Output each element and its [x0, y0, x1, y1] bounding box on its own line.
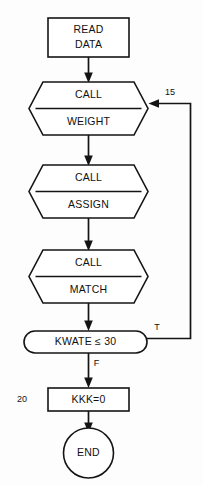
node-call-weight-line1: CALL: [75, 88, 102, 100]
connector-loop-back: [147, 99, 191, 338]
node-call-match-line1: CALL: [75, 256, 102, 268]
flowchart-diagram: READ DATA CALL WEIGHT CALL ASSIGN CALL M…: [0, 0, 203, 485]
connector-match-to-decision: [84, 303, 93, 331]
connector-weight-to-assign: [84, 135, 93, 166]
step-label-kkk: 20: [17, 394, 27, 404]
node-decision-kwate[interactable]: KWATE ≤ 30: [24, 331, 147, 353]
node-call-match-line2: MATCH: [70, 283, 108, 295]
node-call-assign-line2: ASSIGN: [68, 198, 109, 210]
node-read-data-line2: DATA: [75, 38, 102, 50]
node-call-weight-line2: WEIGHT: [67, 115, 111, 127]
connector-read-to-weight: [84, 57, 93, 83]
node-call-assign[interactable]: CALL ASSIGN: [29, 165, 148, 218]
node-assign-kkk-label: KKK=0: [72, 393, 106, 405]
connector-decision-false-to-kkk: [84, 353, 93, 388]
edge-label-decision-true: T: [154, 322, 160, 332]
node-assign-kkk[interactable]: KKK=0: [48, 388, 129, 411]
flowchart-canvas: READ DATA CALL WEIGHT CALL ASSIGN CALL M…: [0, 0, 203, 485]
edge-label-decision-false: F: [94, 358, 100, 368]
node-read-data[interactable]: READ DATA: [48, 18, 129, 57]
node-call-assign-line1: CALL: [75, 171, 102, 183]
node-call-weight[interactable]: CALL WEIGHT: [29, 82, 148, 135]
node-end[interactable]: END: [64, 428, 114, 478]
node-end-label: END: [77, 446, 100, 458]
edge-label-loop-back: 15: [165, 87, 175, 97]
node-call-match[interactable]: CALL MATCH: [29, 250, 148, 303]
node-decision-kwate-label: KWATE ≤ 30: [55, 335, 116, 347]
connector-assign-to-match: [84, 218, 93, 251]
node-read-data-line1: READ: [74, 23, 104, 35]
